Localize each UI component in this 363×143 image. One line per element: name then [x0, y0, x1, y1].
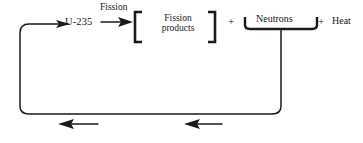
neutrons-label: Neutrons [256, 14, 293, 25]
plus-sign-1: + [228, 16, 234, 28]
fission-process-label: Fission [100, 3, 127, 13]
fission-products-label: Fissionproducts [150, 14, 206, 34]
right-square-bracket [208, 12, 215, 42]
fission-products-line-1: Fission [164, 13, 191, 23]
fission-chain-reaction-diagram: Fission U-235 Fissionproducts + Neutrons… [0, 0, 363, 143]
feedback-loop-path [20, 24, 281, 114]
plus-sign-2: + [318, 16, 324, 28]
left-square-bracket [135, 12, 142, 42]
heat-label: Heat [332, 16, 351, 27]
fission-products-line-2: products [150, 24, 206, 34]
loop-direction-arrow-2 [184, 119, 222, 129]
fission-process-arrow [101, 17, 133, 27]
loop-direction-arrow-1 [58, 119, 98, 129]
reactant-label-u235: U-235 [65, 16, 92, 27]
